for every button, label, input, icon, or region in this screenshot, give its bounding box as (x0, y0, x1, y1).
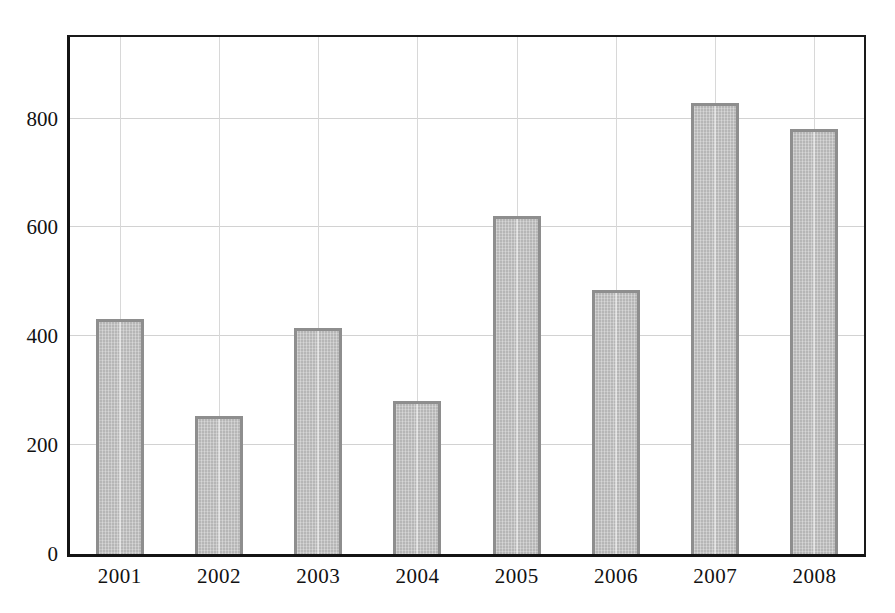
bar-highlight (813, 132, 815, 554)
x-tick-label: 2001 (98, 566, 142, 587)
y-tick-label: 0 (48, 544, 59, 565)
y-tick-label: 800 (27, 108, 59, 129)
y-tick-label: 400 (27, 326, 59, 347)
y-tick-label: 200 (27, 435, 59, 456)
bar-2002 (195, 416, 243, 554)
bar-highlight (714, 106, 716, 554)
bar-highlight (119, 322, 121, 554)
bar-2007 (691, 103, 739, 554)
bar-highlight (218, 419, 220, 554)
x-tick-label: 2008 (792, 566, 836, 587)
bar-2006 (592, 290, 640, 554)
gridline-horizontal (70, 444, 864, 445)
bar-2003 (294, 328, 342, 554)
bar-highlight (615, 293, 617, 554)
gridline-horizontal (70, 226, 864, 227)
plot-area (67, 35, 866, 557)
bar-2004 (393, 401, 441, 554)
gridline-horizontal (70, 118, 864, 119)
bar-2001 (96, 319, 144, 554)
y-tick-label: 600 (27, 217, 59, 238)
bar-highlight (516, 219, 518, 554)
y-axis-tick-labels: 0200400600800 (0, 0, 58, 613)
x-tick-label: 2005 (495, 566, 539, 587)
bar-highlight (416, 404, 418, 554)
x-tick-label: 2007 (693, 566, 737, 587)
bar-2008 (790, 129, 838, 554)
x-tick-label: 2003 (296, 566, 340, 587)
x-axis-tick-labels: 20012002200320042005200620072008 (0, 566, 895, 606)
x-tick-label: 2006 (594, 566, 638, 587)
bar-2005 (493, 216, 541, 554)
bar-chart: 0200400600800 20012002200320042005200620… (0, 0, 895, 613)
bar-highlight (317, 331, 319, 554)
x-tick-label: 2004 (395, 566, 439, 587)
gridline-horizontal (70, 335, 864, 336)
x-tick-label: 2002 (197, 566, 241, 587)
